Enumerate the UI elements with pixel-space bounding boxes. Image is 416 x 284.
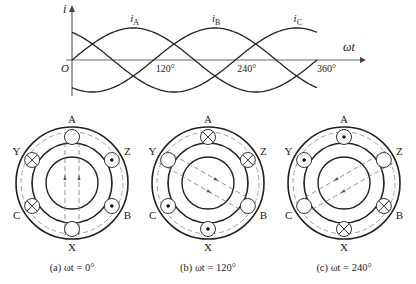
slot-label-B: B	[260, 209, 267, 221]
coil-slot	[376, 153, 391, 168]
coil-X-cross	[337, 222, 352, 237]
coil-Y-empty	[161, 153, 176, 168]
coil-Z-cross	[240, 153, 255, 168]
rotating-field-figure: i ωt O 120°240°360° iAiBiC AZBXCY(a) ωt …	[0, 0, 416, 284]
current-out-dot-icon	[342, 135, 346, 139]
slot-label-Y: Y	[13, 145, 21, 157]
stator-inner	[304, 143, 384, 223]
caption-b: (b) ωt = 120°	[180, 262, 236, 274]
coil-A-cross	[201, 130, 216, 145]
tick-label-120: 120°	[156, 63, 175, 74]
curve-label-iA: iA	[130, 12, 139, 27]
three-phase-waveform: i ωt O 120°240°360° iAiBiC	[61, 2, 366, 96]
slot-label-Z: Z	[260, 145, 267, 157]
field-arrow-icon	[63, 175, 66, 180]
flux-path-dashed	[293, 132, 395, 234]
current-out-dot-icon	[110, 158, 114, 162]
coil-C-empty	[297, 199, 312, 214]
caption-a: (a) ωt = 0°	[50, 262, 95, 274]
slot-label-Z: Z	[124, 145, 131, 157]
slot-label-X: X	[340, 241, 348, 253]
coil-Z-empty	[376, 153, 391, 168]
motor-diagram-b: AZBXCY(b) ωt = 120°	[149, 113, 267, 274]
x-axis-label: ωt	[343, 40, 355, 54]
stator-inner	[32, 143, 112, 223]
curve-label-iB: iB	[212, 12, 220, 27]
motor-diagram-c: AZBXCY(c) ωt = 240°	[285, 113, 403, 274]
slot-label-X: X	[68, 241, 76, 253]
tick-label-240: 240°	[237, 63, 256, 74]
rotor	[46, 157, 98, 209]
current-out-dot-icon	[302, 158, 306, 162]
coil-B-dot	[104, 199, 119, 214]
coil-A-dot	[337, 130, 352, 145]
coil-Z-dot	[104, 153, 119, 168]
curve-label-iC: iC	[294, 12, 302, 27]
coil-slot	[297, 199, 312, 214]
field-arrow-icon	[334, 177, 339, 181]
slot-label-C: C	[285, 209, 292, 221]
motor-diagram-a: AZBXCY(a) ωt = 0°	[13, 113, 131, 274]
field-arrow-icon	[341, 189, 346, 193]
slot-label-X: X	[204, 241, 212, 253]
caption-c: (c) ωt = 240°	[316, 262, 371, 274]
flux-path-dashed	[157, 132, 259, 234]
slot-label-Y: Y	[149, 145, 157, 157]
coil-X-empty	[65, 222, 80, 237]
coil-slot	[161, 153, 176, 168]
slot-label-A: A	[68, 113, 76, 125]
field-arrow-icon	[213, 177, 218, 181]
origin-label: O	[61, 62, 69, 74]
slot-label-Z: Z	[396, 145, 403, 157]
current-out-dot-icon	[166, 204, 170, 208]
coil-slot	[65, 222, 80, 237]
slot-label-A: A	[340, 113, 348, 125]
field-arrow-icon	[206, 189, 211, 193]
coil-X-dot	[201, 222, 216, 237]
current-out-dot-icon	[110, 204, 114, 208]
field-arrow-icon	[77, 175, 80, 180]
slot-label-B: B	[396, 209, 403, 221]
coil-B-empty	[240, 199, 255, 214]
slot-label-C: C	[13, 209, 20, 221]
flux-path-dashed	[21, 132, 123, 234]
slot-label-Y: Y	[285, 145, 293, 157]
slot-label-A: A	[204, 113, 212, 125]
coil-C-cross	[25, 199, 40, 214]
coil-Y-cross	[25, 153, 40, 168]
current-out-dot-icon	[206, 227, 210, 231]
coil-slot	[65, 130, 80, 145]
coil-Y-dot	[297, 153, 312, 168]
coil-slot	[240, 199, 255, 214]
tick-label-360: 360°	[317, 63, 336, 74]
x-axis-arrow-icon	[360, 57, 366, 63]
coil-C-dot	[161, 199, 176, 214]
coil-B-cross	[376, 199, 391, 214]
stator-inner	[168, 143, 248, 223]
slot-label-B: B	[124, 209, 131, 221]
y-axis-arrow-icon	[69, 5, 75, 12]
y-axis-label: i	[63, 2, 66, 16]
slot-label-C: C	[149, 209, 156, 221]
coil-A-empty	[65, 130, 80, 145]
